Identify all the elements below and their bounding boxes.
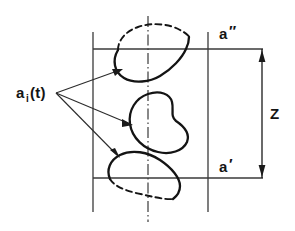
diagram-canvas: a i (t) a ″ a ′ Z <box>0 0 295 231</box>
signal-label-args: (t) <box>30 84 46 101</box>
arrowhead-top-icon <box>259 50 266 62</box>
dimension-label-z: Z <box>270 105 279 122</box>
leader-line-lower <box>56 93 117 155</box>
signal-label-subscript: i <box>26 93 29 104</box>
signal-label-base: a <box>16 84 25 101</box>
plane-upper-label-prime: ″ <box>229 22 236 39</box>
figure-container: a i (t) a ″ a ′ Z <box>0 0 295 231</box>
leader-arrowhead-lower-icon <box>110 148 120 158</box>
plane-upper-label-base: a <box>219 25 228 42</box>
blob-lower-dashed <box>110 179 173 199</box>
plane-lower-label-prime: ′ <box>229 155 233 172</box>
blob-upper-solid <box>115 37 189 82</box>
arrowhead-bottom-icon <box>259 165 266 177</box>
leader-line-upper <box>56 70 120 93</box>
blob-middle-solid <box>130 92 188 153</box>
plane-lower-label-base: a <box>219 158 228 175</box>
blob-upper-dashed <box>118 24 189 50</box>
blob-lower-solid <box>108 152 180 199</box>
